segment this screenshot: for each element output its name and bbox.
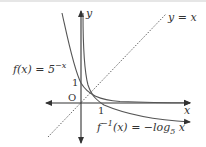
origin-label: O bbox=[68, 92, 76, 103]
y-equals-x-label: y = x bbox=[167, 11, 197, 24]
y-axis-label: y bbox=[85, 7, 93, 20]
f-label: f(x) = 5−x bbox=[12, 61, 67, 76]
y-tick-1: 1 bbox=[72, 77, 78, 88]
x-axis-label: x bbox=[184, 104, 191, 117]
x-tick-1: 1 bbox=[98, 105, 104, 116]
f-inverse-label: f−1(x) = −log5 x bbox=[96, 119, 186, 136]
graph-svg: y x O 1 1 y = x f(x) = 5−x f−1(x) = −log… bbox=[0, 0, 206, 147]
diagram-canvas: y x O 1 1 y = x f(x) = 5−x f−1(x) = −log… bbox=[0, 0, 206, 147]
